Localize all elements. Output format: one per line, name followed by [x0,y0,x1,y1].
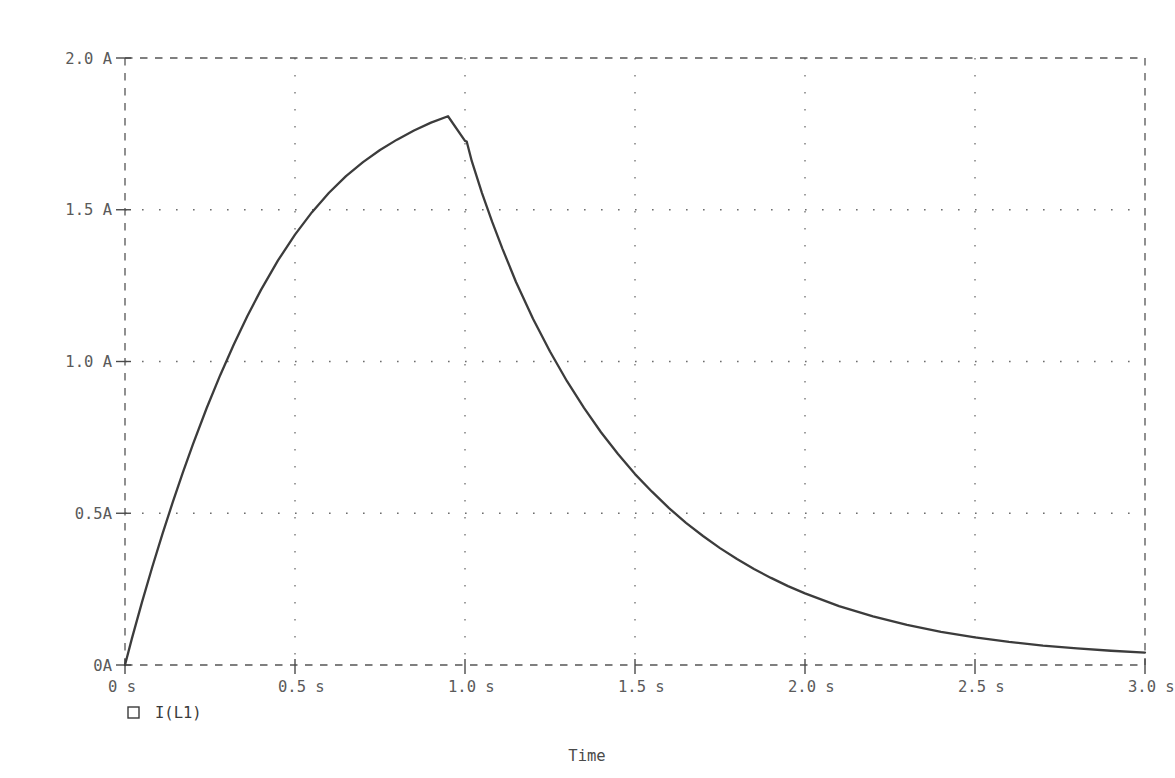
x-axis-tick-label: 2.5 s [958,678,1005,696]
legend-label-il1[interactable]: I(L1) [155,704,202,722]
y-axis-tick-label: 0A [93,657,112,675]
x-axis-tick-label: 0 s [108,678,136,696]
waveform-viewer[interactable]: 0A0.5A1.0 A1.5 A2.0 A 0 s0.5 s1.0 s1.5 s… [0,0,1175,778]
y-axis-tick-label: 0.5A [75,505,113,523]
x-axis-tick-label: 2.0 s [788,678,835,696]
x-axis-tick-label: 1.0 s [448,678,495,696]
y-axis-tick-label: 1.0 A [65,353,112,371]
x-axis-tick-label: 0.5 s [278,678,325,696]
y-axis-tick-label: 1.5 A [65,201,112,219]
x-axis-tick-label: 3.0 s [1128,678,1175,696]
x-axis-title: Time [568,747,605,765]
x-axis-tick-label: 1.5 s [618,678,665,696]
chart-canvas[interactable]: 0A0.5A1.0 A1.5 A2.0 A 0 s0.5 s1.0 s1.5 s… [0,0,1175,778]
y-axis-tick-label: 2.0 A [65,50,112,68]
chart-background [0,0,1175,778]
